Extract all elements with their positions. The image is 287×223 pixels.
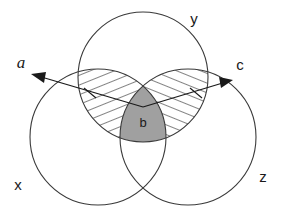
set-label-x: x [14,176,22,193]
set-label-z: z [259,168,267,185]
venn-diagram-figure: a c y x z b [0,0,287,223]
arrow-a-label: a [17,53,26,72]
arrow-c-label: c [236,56,244,73]
set-label-y: y [190,10,198,27]
venn-diagram-canvas: a c y x z b [0,0,287,223]
region-label-b: b [139,115,146,130]
arrow-c-head [219,77,233,88]
arrow-a-head [31,72,46,83]
